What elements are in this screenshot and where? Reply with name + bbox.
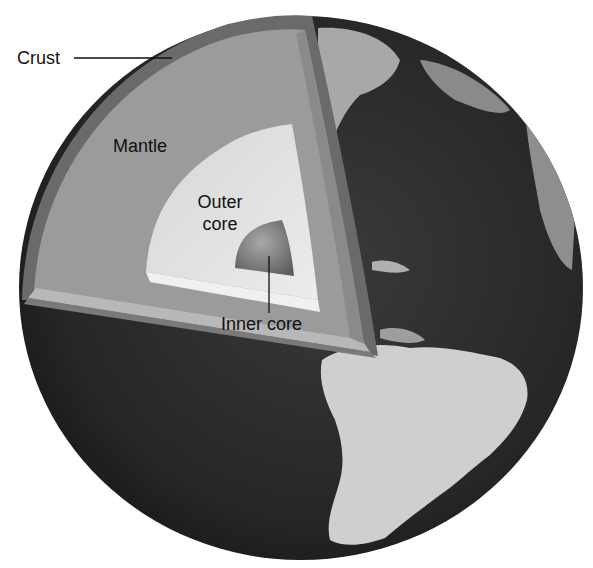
label-outer-core-line2: core: [190, 213, 250, 235]
earth-layers-diagram: Crust Mantle Outer core Inner core: [0, 0, 593, 568]
label-crust: Crust: [17, 47, 60, 69]
label-outer-core-line1: Outer: [190, 191, 250, 213]
label-mantle: Mantle: [113, 135, 167, 157]
label-inner-core: Inner core: [221, 313, 302, 335]
label-outer-core: Outer core: [190, 191, 250, 235]
earth-globe-illustration: [0, 0, 593, 568]
